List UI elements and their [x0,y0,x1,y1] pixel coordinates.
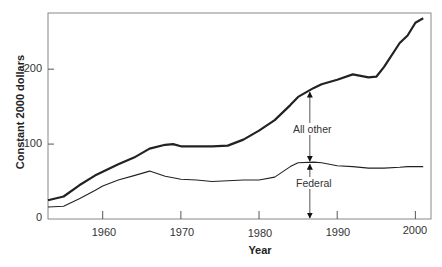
x-axis-label: Year [220,244,300,256]
x-tick-label-1960: 1960 [84,226,124,238]
federal-annotation: Federal [295,177,333,189]
federal-line [48,162,423,207]
x-tick-label-1970: 1970 [162,226,202,238]
x-tick-label-2000: 2000 [395,224,435,236]
x-tick-label-1990: 1990 [318,226,358,238]
y-tick-label-200: 200 [14,62,42,74]
x-axis-ticks [103,211,416,219]
y-axis-ticks [48,69,54,144]
y-tick-label-0: 0 [14,211,42,223]
x-tick-label-1980: 1980 [240,227,280,239]
total-line [48,18,423,200]
plot-frame [48,13,431,219]
chart-canvas [0,0,442,267]
all-other-annotation: All other [292,123,333,135]
y-tick-label-100: 100 [14,137,42,149]
